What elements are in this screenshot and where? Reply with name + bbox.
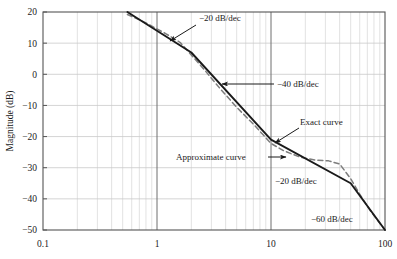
y-tick-label: 10 [28, 39, 38, 49]
annotation-slope-40: −40 dB/dec [277, 79, 319, 89]
x-tick-label: 10 [266, 239, 276, 249]
y-tick-label: 20 [28, 7, 38, 17]
x-tick-label: 1 [155, 239, 160, 249]
y-tick-label: −10 [22, 101, 37, 111]
annotation-approximate-curve: Approximate curve [176, 152, 246, 162]
y-tick-label: −40 [22, 194, 37, 204]
y-tick-label: −30 [22, 163, 37, 173]
y-axis-title: Magnitude (dB) [5, 91, 16, 152]
annotation-slope-60: −60 dB/dec [311, 214, 353, 224]
bode-magnitude-figure: 20100−10−20−30−40−50 0.1110100 Magnitude… [0, 0, 397, 259]
annotation-exact-curve: Exact curve [300, 117, 343, 127]
y-tick-label: 0 [32, 70, 37, 80]
y-tick-label: −50 [22, 225, 37, 235]
bode-plot-svg: 20100−10−20−30−40−50 0.1110100 Magnitude… [0, 0, 397, 259]
x-tick-label: 0.1 [37, 239, 49, 249]
x-tick-label: 100 [378, 239, 393, 249]
annotation-slope-20-lower: −20 dB/dec [275, 176, 317, 186]
y-tick-label: −20 [22, 132, 37, 142]
annotation-slope-20-upper: −20 dB/dec [199, 13, 241, 23]
